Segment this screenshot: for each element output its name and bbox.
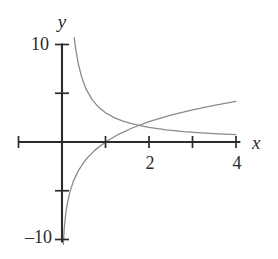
x-tick-label-2: 2: [146, 154, 155, 172]
x-axis-label: x: [252, 133, 260, 152]
y-axis-label: y: [58, 12, 66, 31]
y-tick-label-10: 10: [31, 35, 49, 53]
plot-figure: y x 10 –10 2 4: [0, 0, 278, 259]
y-tick-label-minus-10: –10: [25, 228, 52, 246]
axis-group: [19, 44, 241, 243]
x-tick-label-4: 4: [233, 154, 242, 172]
